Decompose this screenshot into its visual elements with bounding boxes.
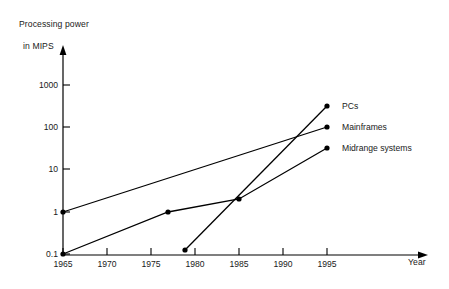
data-point (60, 251, 65, 256)
x-tick-label-1985: 1985 (229, 259, 248, 269)
x-tick-label-1965: 1965 (53, 259, 72, 269)
data-point (324, 145, 329, 150)
data-point (324, 103, 329, 108)
data-point (165, 209, 170, 214)
x-axis (63, 252, 428, 259)
y-axis (60, 45, 67, 255)
series-label-pcs: PCs (342, 101, 358, 111)
data-point (182, 247, 187, 252)
x-tick-label-1995: 1995 (317, 259, 336, 269)
y-tick-label-1000: 1000 (12, 80, 58, 90)
y-tick-label-10: 10 (12, 164, 58, 174)
y-tick-label-100: 100 (12, 122, 58, 132)
y-tick-label-1: 1 (12, 207, 58, 217)
x-tick-label-1980: 1980 (185, 259, 204, 269)
chart-container: Processing power in MIPS Year (0, 0, 449, 289)
data-point (60, 209, 65, 214)
x-tick-label-1975: 1975 (141, 259, 160, 269)
y-tick-label-0-1: 0.1 (12, 249, 58, 259)
series-label-mainframes: Mainframes (342, 122, 387, 132)
series-line-pcs (182, 103, 329, 252)
series-label-midrange-systems: Midrange systems (342, 143, 412, 153)
x-tick-label-1970: 1970 (97, 259, 116, 269)
data-point (324, 124, 329, 129)
x-axis-ticks (63, 248, 327, 255)
y-axis-ticks (63, 85, 70, 254)
x-tick-label-1990: 1990 (273, 259, 292, 269)
